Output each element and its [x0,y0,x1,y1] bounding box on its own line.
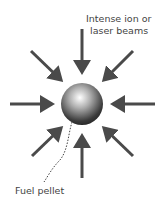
arrow-bottom-left [32,128,61,156]
arrow-bottom-right [104,128,133,156]
pellet-label: Fuel pellet [15,185,64,196]
fuel-pellet-sphere [61,83,103,125]
arrow-top-left [31,51,61,80]
beams-label-line2: laser beams [90,25,148,36]
beams-label-line1: Intense ion or [86,13,151,24]
arrow-top-right [104,51,133,80]
